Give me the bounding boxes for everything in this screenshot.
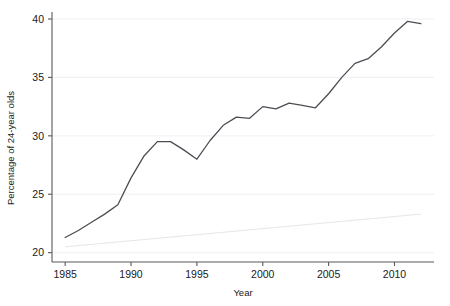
x-tick-label-2005: 2005 (317, 268, 341, 280)
y-tick-label-25: 25 (32, 188, 44, 200)
x-tick-label-1995: 1995 (185, 268, 209, 280)
x-tick-label-1985: 1985 (53, 268, 77, 280)
x-axis-ticks: 198519901995200020052010 (53, 262, 406, 280)
y-tick-label-40: 40 (32, 13, 44, 25)
series-group (65, 21, 421, 246)
data-line-percentage-24-year-olds (65, 21, 421, 237)
chart-screenshot: 2025303540 198519901995200020052010 Perc… (0, 0, 450, 306)
axes-group: 2025303540 198519901995200020052010 (32, 12, 434, 280)
trend-line (65, 214, 421, 247)
line-chart: 2025303540 198519901995200020052010 Perc… (0, 0, 450, 306)
x-tick-label-2010: 2010 (383, 268, 407, 280)
y-tick-label-30: 30 (32, 130, 44, 142)
x-axis-title: Year (233, 287, 252, 298)
y-tick-label-35: 35 (32, 71, 44, 83)
y-tick-label-20: 20 (32, 246, 44, 258)
y-axis-title: Percentage of 24-year olds (5, 91, 16, 205)
x-tick-label-1990: 1990 (119, 268, 143, 280)
gridlines-group (52, 19, 434, 253)
y-axis-ticks: 2025303540 (32, 13, 52, 259)
x-tick-label-2000: 2000 (251, 268, 275, 280)
